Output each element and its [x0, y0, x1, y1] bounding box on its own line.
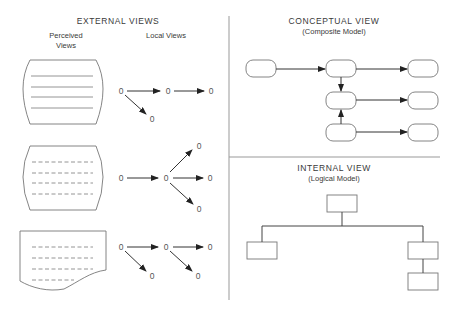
local-node: 0 [196, 271, 201, 281]
local-node: 0 [166, 86, 171, 96]
arrow [170, 183, 193, 204]
perceived-views-label-line2: Views [56, 41, 76, 50]
screen-icon [23, 60, 103, 124]
local-node: 0 [164, 173, 169, 183]
external-views-section: EXTERNAL VIEWS Perceived Views Local Vie… [20, 16, 214, 290]
entity-node [326, 92, 356, 109]
perceived-view-screen-1 [23, 60, 103, 124]
arrow [170, 150, 192, 172]
local-node: 0 [197, 141, 202, 151]
internal-view-section: INTERNAL VIEW (Logical Model) [247, 163, 438, 290]
local-node: 0 [119, 86, 124, 96]
arrow [125, 95, 146, 114]
local-views-label: Local Views [146, 31, 186, 40]
local-view-1: 0 0 0 0 [119, 86, 214, 124]
conceptual-view-title: CONCEPTUAL VIEW [289, 16, 380, 26]
diagram-canvas: EXTERNAL VIEWS Perceived Views Local Vie… [0, 0, 456, 312]
perceived-view-screen-2 [23, 146, 103, 210]
local-node: 0 [150, 114, 155, 124]
record-node [327, 195, 357, 212]
tree-connector [262, 226, 423, 242]
entity-node [246, 60, 276, 77]
local-view-3: 0 0 0 0 0 [119, 242, 213, 281]
local-node: 0 [197, 204, 202, 214]
local-node: 0 [119, 242, 124, 252]
internal-view-title: INTERNAL VIEW [297, 163, 371, 173]
arrow [170, 251, 192, 271]
local-node: 0 [209, 86, 214, 96]
document-icon [20, 231, 106, 290]
local-node: 0 [164, 242, 169, 252]
screen-icon [23, 146, 103, 210]
record-node [408, 273, 438, 290]
entity-node [326, 60, 356, 77]
conceptual-view-subtitle: (Composite Model) [302, 27, 366, 36]
arrow [125, 251, 146, 271]
entity-node [408, 124, 438, 141]
local-view-2: 0 0 0 0 0 [119, 141, 213, 214]
entity-node [408, 92, 438, 109]
entity-node [326, 124, 356, 141]
local-node: 0 [208, 173, 213, 183]
external-views-title: EXTERNAL VIEWS [77, 16, 160, 26]
local-node: 0 [150, 271, 155, 281]
conceptual-view-section: CONCEPTUAL VIEW (Composite Model) [246, 16, 438, 141]
perceived-view-document [20, 231, 106, 290]
record-node [408, 242, 438, 259]
local-node: 0 [208, 242, 213, 252]
internal-view-subtitle: (Logical Model) [308, 174, 360, 183]
entity-node [408, 60, 438, 77]
local-node: 0 [119, 173, 124, 183]
record-node [247, 242, 277, 259]
perceived-views-label-line1: Perceived [49, 31, 82, 40]
